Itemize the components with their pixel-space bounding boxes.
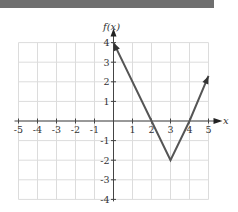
x-axis-label: x [223,115,229,126]
x-tick-label: -1 [90,124,99,135]
x-tick-label: 1 [129,124,135,135]
x-tick-label: -2 [71,124,80,135]
function-graph: -5-4-3-2-1123454321-1-2-3-4 f(x) x [0,0,238,212]
y-tick-label: 2 [103,76,109,87]
x-tick-label: 3 [167,124,173,135]
y-tick-label: 3 [103,57,109,68]
y-tick-label: 1 [103,96,109,107]
x-axis-arrow-icon [214,118,223,124]
y-tick-label: -3 [100,174,109,185]
y-tick-label: -2 [100,155,109,166]
y-tick-label: -4 [100,194,109,205]
x-tick-label: 5 [205,124,211,135]
x-tick-label: -3 [52,124,61,135]
line-start-arrow-icon [114,43,120,52]
y-tick-label: 4 [103,37,109,48]
line-end-arrow-icon [202,76,208,85]
y-tick-label: -1 [100,135,109,146]
x-tick-label: -5 [14,124,23,135]
y-axis-label: f(x) [102,21,120,32]
x-tick-label: -4 [33,124,42,135]
